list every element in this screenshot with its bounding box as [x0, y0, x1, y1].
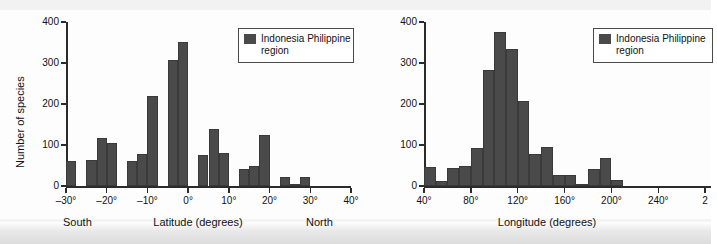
x-axis-tick: [269, 188, 271, 193]
x-axis-tick-label: 30°: [288, 196, 332, 206]
bar: [147, 96, 157, 186]
left-north-label: North: [306, 216, 333, 228]
x-axis-tick: [611, 188, 613, 193]
bar: [137, 154, 147, 186]
bar: [198, 155, 208, 186]
bar: [178, 42, 188, 186]
x-axis-tick-label: 20°: [248, 196, 292, 206]
y-axis-tick-label: 300: [26, 58, 59, 68]
x-axis-tick: [658, 188, 660, 193]
x-axis-tick-label: 40°: [402, 196, 446, 206]
left-legend: Indonesia Philippine region: [238, 28, 354, 63]
x-axis-tick-label: 80°: [449, 196, 493, 206]
bar: [553, 175, 565, 186]
bar: [529, 154, 541, 186]
y-axis-tick-label: 200: [26, 99, 59, 109]
bar: [565, 175, 577, 186]
bar: [483, 70, 495, 186]
x-axis-tick-label: 0°: [166, 196, 210, 206]
left-x-axis-line: [66, 186, 351, 188]
bar: [436, 181, 448, 186]
y-axis-tick-label: 400: [384, 17, 417, 27]
bar: [249, 166, 259, 186]
bar: [290, 184, 300, 186]
bar: [168, 60, 178, 186]
x-axis-tick: [187, 188, 189, 193]
bar: [541, 147, 553, 186]
left-x-axis-title: Latitude (degrees): [128, 216, 268, 228]
x-axis-tick-label: 120°: [496, 196, 540, 206]
right-legend-label-line2: region: [599, 45, 706, 57]
bar: [209, 129, 219, 186]
x-axis-tick: [564, 188, 566, 193]
left-legend-label-line2: region: [244, 45, 347, 57]
x-axis-tick-label: 2: [683, 196, 717, 206]
bar: [424, 167, 436, 186]
x-axis-tick-label: –10°: [125, 196, 169, 206]
y-axis-tick-label: 300: [384, 58, 417, 68]
bar: [518, 101, 530, 186]
x-axis-tick-label: 240°: [636, 196, 680, 206]
x-axis-tick: [704, 188, 706, 193]
bar: [506, 49, 518, 186]
y-axis-tick-label: 0: [26, 181, 59, 191]
bar: [494, 32, 506, 186]
bar: [239, 169, 249, 186]
left-legend-label-line1: Indonesia Philippine: [261, 33, 351, 45]
y-axis-tick-label: 100: [26, 140, 59, 150]
latitude-chart-panel: Number of species 0100200300400 –30°–20°…: [0, 0, 362, 244]
x-axis-tick: [228, 188, 230, 193]
right-legend-swatch: [599, 34, 611, 44]
bar: [259, 135, 269, 186]
x-axis-tick-label: 160°: [543, 196, 587, 206]
y-axis-tick-label: 400: [26, 17, 59, 27]
right-legend: Indonesia Philippine region: [593, 28, 713, 63]
x-axis-tick-label: 10°: [207, 196, 251, 206]
bar: [471, 148, 483, 186]
bar: [66, 161, 76, 186]
right-legend-label-line1: Indonesia Philippine: [616, 33, 706, 45]
x-axis-tick: [310, 188, 312, 193]
x-axis-tick: [470, 188, 472, 193]
y-axis-tick-label: 200: [384, 99, 417, 109]
x-axis-tick: [350, 188, 352, 193]
x-axis-tick-label: –20°: [85, 196, 129, 206]
x-axis-tick: [147, 188, 149, 193]
bar: [86, 160, 96, 186]
right-x-axis-title: Longitude (degrees): [472, 216, 622, 228]
left-y-axis-title: Number of species: [14, 76, 26, 168]
right-x-axis-line: [424, 186, 711, 188]
x-axis-tick: [106, 188, 108, 193]
left-south-label: South: [63, 216, 92, 228]
bar: [447, 168, 459, 186]
y-axis-tick-label: 100: [384, 140, 417, 150]
bar: [219, 153, 229, 186]
left-legend-swatch: [244, 34, 256, 44]
x-axis-tick-label: –30°: [44, 196, 88, 206]
x-axis-tick: [517, 188, 519, 193]
bar: [600, 158, 612, 186]
bar: [107, 143, 117, 186]
bar: [588, 169, 600, 186]
bar: [127, 161, 137, 186]
bar: [300, 177, 310, 186]
bar: [459, 166, 471, 186]
bar: [576, 184, 588, 186]
x-axis-tick: [65, 188, 67, 193]
bar: [97, 138, 107, 186]
bar: [611, 180, 623, 186]
bar: [280, 177, 290, 186]
y-axis-tick-label: 0: [384, 181, 417, 191]
longitude-chart-panel: 0100200300400 40°80°120°160°200°240°2 Lo…: [362, 0, 711, 244]
x-axis-tick: [423, 188, 425, 193]
x-axis-tick-label: 200°: [589, 196, 633, 206]
